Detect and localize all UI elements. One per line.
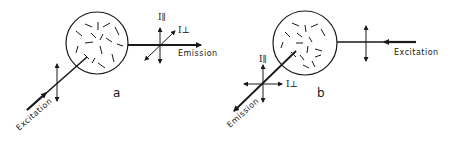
i-parallel-label-b: I∥ [259, 54, 267, 64]
i-perp-label-b: I⊥ [286, 79, 298, 89]
i-parallel-label-a: I∥ [158, 12, 166, 22]
emission-label-a: Emission [178, 49, 218, 58]
sample-sphere-b [273, 11, 337, 75]
panel-label-b: b [317, 86, 325, 100]
excitation-label-b: Excitation [394, 48, 439, 57]
i-perp-label-a: I⊥ [178, 25, 190, 35]
panel-label-a: a [113, 86, 120, 100]
sample-sphere-a [66, 12, 128, 74]
panel-b: I∥ I⊥ Excitation Emission b [225, 11, 438, 129]
excitation-beam-a [27, 54, 89, 110]
fluorescence-polarization-diagram: I∥ I⊥ Emission Excitation a [0, 0, 451, 141]
excitation-label-a: Excitation [14, 96, 54, 132]
panel-a: I∥ I⊥ Emission Excitation a [14, 12, 217, 133]
molecules-b [281, 23, 325, 68]
